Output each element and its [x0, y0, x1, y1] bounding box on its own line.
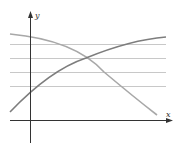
diagram-canvas: y x — [0, 0, 180, 155]
decreasing-curve — [10, 34, 157, 115]
y-axis-arrow-icon — [28, 11, 33, 18]
x-axis-label: x — [166, 110, 171, 119]
gridlines — [10, 45, 166, 87]
x-axis — [10, 118, 173, 123]
increasing-curve — [10, 37, 166, 112]
y-axis — [28, 11, 33, 143]
y-axis-label: y — [34, 11, 40, 20]
